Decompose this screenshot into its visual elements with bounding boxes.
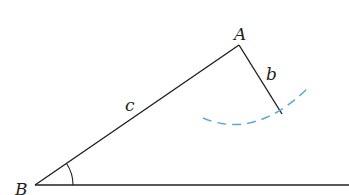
side-c (35, 45, 239, 185)
side-label-b: b (266, 64, 277, 84)
vertex-label-b: B (14, 179, 28, 195)
angle-b-marker (67, 164, 74, 186)
dashed-arc (203, 88, 308, 125)
triangle-diagram: A B b c (0, 0, 349, 195)
vertex-label-a: A (232, 24, 246, 44)
side-label-c: c (125, 95, 135, 115)
